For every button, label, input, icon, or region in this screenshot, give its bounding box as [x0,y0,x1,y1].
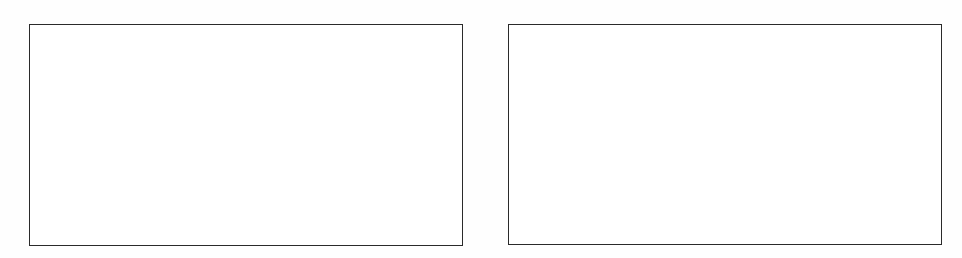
right-panel-content-area [509,25,941,244]
right-panel-frame [508,24,942,245]
left-panel-content-area [30,25,462,245]
scanned-page-canvas [0,0,962,258]
left-panel-frame [29,24,463,246]
